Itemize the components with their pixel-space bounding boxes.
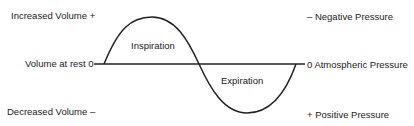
negative-pressure-label: – Negative Pressure	[307, 11, 393, 22]
expiration-label: Expiration	[221, 75, 263, 86]
sine-curve	[104, 17, 296, 113]
atmospheric-pressure-label: 0 Atmospheric Pressure	[307, 59, 408, 70]
inspiration-label: Inspiration	[131, 40, 175, 51]
decreased-volume-label: Decreased Volume –	[7, 106, 95, 117]
respiratory-pressure-volume-diagram: Increased Volume + Volume at rest 0 Decr…	[0, 0, 414, 126]
positive-pressure-label: + Positive Pressure	[307, 109, 389, 120]
increased-volume-label: Increased Volume +	[11, 10, 95, 21]
volume-at-rest-label: Volume at rest 0	[25, 58, 94, 69]
